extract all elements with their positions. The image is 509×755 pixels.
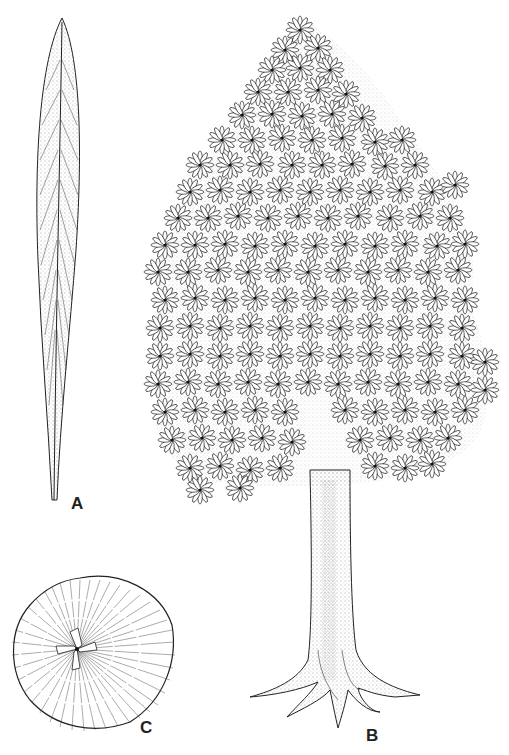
tree-trunk-drawing xyxy=(250,470,420,728)
leaf-drawing xyxy=(37,18,80,500)
illustration xyxy=(0,0,509,755)
panel-label-b: B xyxy=(366,726,378,746)
panel-label-a: A xyxy=(71,494,83,514)
stem-cross-section-drawing xyxy=(12,576,175,731)
panel-label-c: C xyxy=(140,718,152,738)
tree-crown-drawing xyxy=(144,16,499,504)
